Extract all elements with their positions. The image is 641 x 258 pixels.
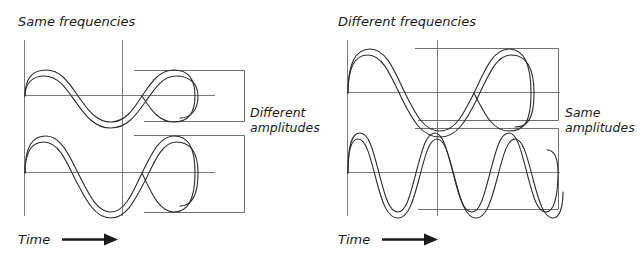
right-bottom-amplitude-bracket: [415, 129, 559, 210]
right-panel-heading: Different frequencies: [338, 14, 476, 29]
left-time-label: Time: [18, 232, 50, 247]
wave-comparison-figure: Same frequencies Different amplitudes: [0, 0, 641, 258]
right-bottom-wave: [348, 133, 563, 218]
left-bottom-amplitude-bracket: [134, 136, 245, 213]
right-arrow-head-icon: [424, 234, 438, 246]
left-bracket-label-line1: Different: [250, 105, 307, 120]
left-bottom-wave: [25, 136, 198, 218]
left-panel: Same frequencies Different amplitudes: [18, 14, 320, 247]
left-arrow-head-icon: [104, 234, 118, 246]
right-time-label: Time: [338, 232, 370, 247]
figure-canvas: Same frequencies Different amplitudes: [0, 0, 641, 258]
left-panel-heading: Same frequencies: [18, 14, 135, 29]
right-top-amplitude-bracket: [415, 49, 559, 121]
right-panel: Different frequencies Same amplitudes: [338, 14, 635, 247]
left-time-arrow: Time: [18, 232, 118, 247]
left-top-wave: [25, 70, 198, 128]
right-time-arrow: Time: [338, 232, 438, 247]
left-bracket-label-line2: amplitudes: [250, 120, 320, 135]
right-bracket-label-line2: amplitudes: [565, 120, 635, 135]
right-bracket-label-line1: Same: [565, 105, 601, 120]
